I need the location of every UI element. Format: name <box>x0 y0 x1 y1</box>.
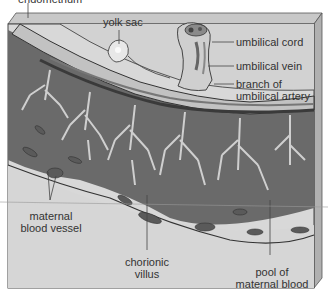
label-yolk-sac: yolk sac <box>103 16 143 28</box>
label-branch-of: branch of <box>236 78 282 90</box>
label-pool-of: pool of <box>232 266 312 278</box>
label-umbilical-artery: umbilical artery <box>236 90 310 102</box>
frame-bevel-right <box>314 13 322 288</box>
label-umbilical-cord: umbilical cord <box>236 36 303 48</box>
label-blood-vessel: blood vessel <box>16 222 86 234</box>
label-chorionic: chorionic <box>112 256 182 268</box>
label-villus: villus <box>112 268 182 280</box>
label-umbilical-vein: umbilical vein <box>236 60 302 72</box>
label-maternal-blood: maternal blood <box>232 278 312 290</box>
label-endometrium: endometrium <box>18 0 82 5</box>
umbilical-cord <box>178 23 213 91</box>
label-maternal: maternal <box>16 210 86 222</box>
frame-bevel-top <box>8 13 322 24</box>
